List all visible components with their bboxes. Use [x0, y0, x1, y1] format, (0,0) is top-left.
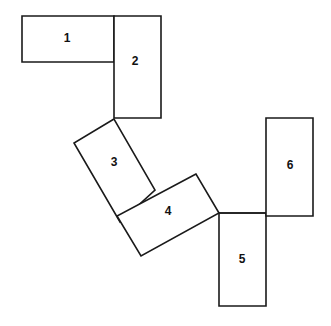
- rectangle-4-label: 4: [165, 204, 172, 218]
- rectangle-2-label: 2: [132, 54, 139, 68]
- rectangle-chain-diagram: 1 2 3 4 5 6: [0, 0, 331, 326]
- rectangle-6-label: 6: [287, 158, 294, 172]
- rectangle-5-label: 5: [239, 252, 246, 266]
- rectangle-3-label: 3: [111, 155, 118, 169]
- rectangle-1-label: 1: [64, 31, 71, 45]
- diagram-canvas: 1 2 3 4 5 6: [0, 0, 331, 326]
- rectangle-group: [22, 16, 313, 306]
